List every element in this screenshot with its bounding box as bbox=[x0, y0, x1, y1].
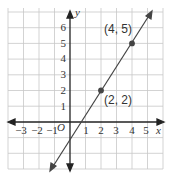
svg-text:−2: −2 bbox=[31, 124, 43, 136]
svg-text:2: 2 bbox=[61, 84, 67, 96]
y-axis-label: y bbox=[74, 6, 80, 18]
svg-text:−3: −3 bbox=[15, 124, 27, 136]
svg-text:5: 5 bbox=[61, 37, 67, 49]
x-ticks: −3−2−1 12345 bbox=[15, 124, 149, 136]
svg-text:4: 4 bbox=[129, 124, 135, 136]
svg-text:5: 5 bbox=[143, 124, 149, 136]
origin-label: O bbox=[57, 121, 65, 133]
svg-text:2: 2 bbox=[98, 124, 104, 136]
point-label-2-2: (2, 2) bbox=[104, 93, 132, 107]
svg-text:4: 4 bbox=[61, 52, 67, 64]
x-axis-label: x bbox=[155, 124, 161, 136]
point-label-4-5: (4, 5) bbox=[104, 22, 132, 36]
axes bbox=[8, 11, 164, 171]
svg-text:−1: −1 bbox=[46, 124, 58, 136]
svg-text:3: 3 bbox=[61, 68, 67, 80]
svg-text:1: 1 bbox=[61, 100, 67, 112]
grid bbox=[8, 8, 163, 169]
coordinate-plane: y x O 654321 −3−2−1 12345 (4, 5) (2, 2) bbox=[0, 0, 170, 178]
svg-text:3: 3 bbox=[113, 124, 119, 136]
svg-text:1: 1 bbox=[83, 124, 89, 136]
svg-text:6: 6 bbox=[61, 21, 67, 33]
y-ticks: 654321 bbox=[61, 21, 67, 112]
